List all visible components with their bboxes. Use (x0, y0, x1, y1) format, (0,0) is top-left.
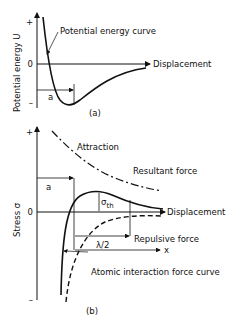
y-axis-label-b: Stress σ (12, 202, 22, 237)
a-label-b: a (46, 182, 51, 192)
atomic-label: Atomic interaction force curve (91, 267, 220, 277)
attraction-label: Attraction (77, 142, 119, 152)
curve-label-a: Potential energy curve (60, 26, 156, 36)
resultant-label: Resultant force (133, 166, 197, 176)
sigma-th: σth (101, 197, 114, 210)
panel-a: + 0 – Potential energy U Displacement Po… (12, 13, 212, 118)
y-zero-a: 0 (28, 59, 33, 69)
y-plus-b: + (26, 127, 33, 137)
attraction-curve (52, 131, 162, 191)
y-minus-b: – (29, 295, 33, 305)
y-minus-a: – (29, 98, 33, 108)
caption-a: (a) (89, 108, 101, 118)
y-zero-b: 0 (28, 207, 33, 217)
y-axis-label-a: Potential energy U (12, 34, 22, 112)
x-axis-label-b: Displacement (167, 207, 226, 217)
panel-b: + 0 – Stress σ Displacement Attraction R… (12, 127, 226, 316)
y-plus-a: + (26, 17, 33, 27)
x-axis-label-a: Displacement (153, 59, 212, 69)
repulsive-label: Repulsive force (134, 234, 199, 244)
x-label: x (164, 245, 169, 255)
a-label-a: a (48, 92, 53, 102)
diagram: + 0 – Potential energy U Displacement Po… (0, 0, 248, 323)
caption-b: (b) (86, 306, 98, 316)
repulsive-curve (66, 216, 162, 302)
lambda-label: λ/2 (96, 240, 109, 250)
